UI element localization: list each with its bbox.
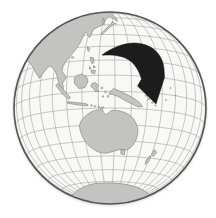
island-dot (102, 96, 104, 98)
island-dot (107, 95, 109, 97)
globe-svg (0, 0, 216, 218)
island-dot (170, 87, 171, 88)
globe (8, 4, 206, 215)
island-dot (94, 105, 96, 107)
island-dot (148, 98, 150, 100)
island-dot (71, 56, 73, 58)
island-dot (102, 107, 104, 109)
island-dot (101, 87, 103, 89)
island-dot (165, 99, 166, 100)
island-dot (152, 102, 154, 104)
island-dot (104, 91, 106, 93)
island-dot (175, 95, 176, 96)
island-dot (155, 105, 157, 107)
island-dot (91, 105, 93, 107)
island-dot (98, 106, 100, 108)
globe-figure (0, 0, 216, 218)
island-dot (115, 23, 116, 24)
land-tasmania (121, 150, 125, 155)
